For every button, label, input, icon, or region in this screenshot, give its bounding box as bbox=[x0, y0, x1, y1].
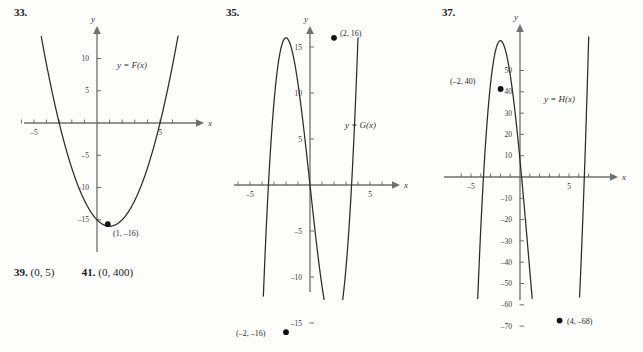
answer-41-value: (0, 400) bbox=[98, 266, 133, 278]
figure-33-x-axis-label: x bbox=[207, 118, 212, 128]
y-tick-label: –10 bbox=[290, 273, 303, 282]
y-tick-label: –20 bbox=[500, 215, 513, 224]
y-tick-label: –70 bbox=[500, 322, 513, 331]
figure-37-panel: 37. y x y = H(x) (–2, 40) (4, –68) –5550… bbox=[428, 0, 643, 300]
y-tick-label: –15 bbox=[77, 215, 90, 224]
y-tick-label: –10 bbox=[500, 194, 513, 203]
figure-33-panel: 33. y x y = F(x) (1, –16) –55105–5–10–15 bbox=[0, 0, 214, 300]
y-tick-label: 50 bbox=[505, 66, 513, 75]
figure-35-min-point-label: (–2, –16) bbox=[236, 329, 266, 338]
figure-37-max-point-label: (–2, 40) bbox=[450, 77, 476, 86]
y-tick-label: 5 bbox=[298, 135, 302, 144]
y-tick-label: –10 bbox=[77, 183, 90, 192]
figure-35-y-axis-label: y bbox=[303, 14, 308, 24]
y-tick-label: –5 bbox=[81, 151, 90, 160]
y-tick-label: 10 bbox=[82, 54, 90, 63]
y-tick-label: –15 bbox=[290, 319, 303, 328]
figure-37-plot: y x y = H(x) (–2, 40) (4, –68) –55504030… bbox=[428, 0, 643, 300]
figure-37-x-axis-label: x bbox=[621, 172, 626, 182]
y-tick-label: –30 bbox=[500, 237, 513, 246]
exercise-number-39: 39. bbox=[14, 266, 28, 278]
figure-37-y-axis-label: y bbox=[513, 12, 518, 22]
y-tick-label: –40 bbox=[500, 258, 513, 267]
x-tick-label: 5 bbox=[567, 182, 571, 191]
figure-35-local-max-dot bbox=[331, 35, 337, 41]
y-tick-label: 10 bbox=[295, 89, 303, 98]
x-tick-label: –5 bbox=[466, 182, 475, 191]
figure-33-x-axis-arrowhead bbox=[196, 119, 204, 127]
figure-35-local-min-dot bbox=[283, 329, 289, 335]
x-tick-label: –5 bbox=[245, 190, 254, 199]
figure-37-ticks bbox=[461, 71, 588, 327]
figure-35-y-axis-arrowhead bbox=[306, 26, 314, 34]
x-tick-label: 5 bbox=[368, 190, 372, 199]
figure-37-min-point-label: (4, –68) bbox=[567, 317, 593, 326]
figure-33-curve-label: y = F(x) bbox=[116, 60, 147, 70]
x-tick-label: –5 bbox=[29, 128, 38, 137]
figure-35-x-axis-label: x bbox=[403, 180, 408, 190]
figure-35-curve-label: y = G(x) bbox=[344, 120, 376, 130]
figure-37-local-max-dot bbox=[498, 86, 504, 92]
figure-35-x-axis-arrowhead bbox=[392, 181, 400, 189]
figure-35-panel: 35. y x y = G(x) (2, 16) (–2, –16) –5515… bbox=[214, 0, 428, 300]
figure-33-y-axis-label: y bbox=[90, 14, 95, 24]
figure-37-x-axis-arrowhead bbox=[610, 173, 618, 181]
y-tick-label: 15 bbox=[295, 43, 303, 52]
y-tick-label: 5 bbox=[85, 86, 89, 95]
y-tick-label: 40 bbox=[505, 87, 513, 96]
y-tick-label: 30 bbox=[505, 109, 513, 118]
answer-39-value: (0, 5) bbox=[31, 266, 55, 278]
figure-37-y-axis-arrowhead bbox=[516, 24, 524, 32]
figure-35-curve bbox=[263, 38, 358, 300]
x-tick-label: 5 bbox=[158, 128, 162, 137]
figure-37-local-min-dot bbox=[557, 318, 563, 324]
figure-37-curve bbox=[478, 37, 589, 299]
y-tick-label: –50 bbox=[500, 279, 513, 288]
answers-page: 33. y x y = F(x) (1, –16) –55105–5–10–15… bbox=[0, 0, 643, 352]
y-tick-label: –60 bbox=[500, 300, 513, 309]
y-tick-label: –5 bbox=[294, 227, 303, 236]
figure-35-max-point-label: (2, 16) bbox=[340, 29, 362, 38]
answers-row: 39. (0, 5) 41. (0, 400) bbox=[14, 266, 133, 278]
figure-33-vertex-dot bbox=[105, 221, 111, 227]
figure-37-curve-label: y = H(x) bbox=[543, 94, 575, 104]
y-tick-label: 10 bbox=[505, 151, 513, 160]
y-tick-label: 20 bbox=[505, 130, 513, 139]
figure-35-plot: y x y = G(x) (2, 16) (–2, –16) –5515105–… bbox=[214, 0, 428, 300]
figure-33-y-axis-arrowhead bbox=[93, 26, 101, 34]
exercise-number-41: 41. bbox=[82, 266, 96, 278]
figure-33-plot: y x y = F(x) (1, –16) –55105–5–10–15 bbox=[0, 0, 214, 300]
figure-33-point-label: (1, –16) bbox=[113, 229, 139, 238]
